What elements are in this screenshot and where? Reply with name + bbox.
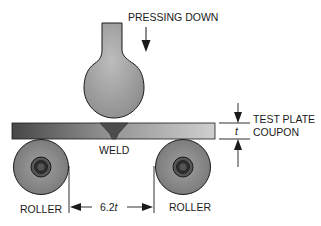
arrow-down-icon <box>234 112 242 123</box>
bend-test-diagram: PRESSING DOWN WELD ROLLER ROLLER 6.2t <box>0 0 321 226</box>
roller-left <box>14 140 69 195</box>
pressing-down-label: PRESSING DOWN <box>128 11 218 23</box>
thickness-label: t <box>235 125 239 137</box>
plunger-body <box>84 23 144 118</box>
roller-right-label: ROLLER <box>169 201 211 213</box>
weld-label: WELD <box>99 144 130 156</box>
coupon-label: COUPON <box>253 126 299 138</box>
roller-left-label: ROLLER <box>20 203 62 215</box>
pressing-down-arrow-icon <box>142 27 151 52</box>
plunger <box>84 23 144 118</box>
arrow-up-icon <box>234 139 242 150</box>
roller-spacing-label: 6.2t <box>100 201 119 213</box>
arrow-right-icon <box>142 203 153 211</box>
test-plate-label: TEST PLATE <box>253 113 315 125</box>
arrow-left-icon <box>70 203 81 211</box>
roller-right <box>156 140 211 195</box>
